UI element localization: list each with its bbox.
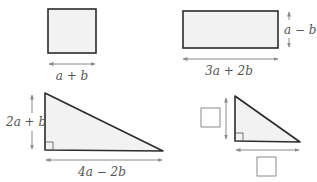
rectangle-shape: 3a + 2b a − b <box>183 11 317 78</box>
base-answer-box[interactable] <box>257 157 276 176</box>
square-shape: a + b <box>48 9 96 83</box>
geometry-diagram: a + b 3a + 2b a − b 2a + b 4a − 2b <box>0 0 317 182</box>
square-side-label: a + b <box>56 69 89 83</box>
triangle-large-shape: 2a + b 4a − 2b <box>5 93 163 179</box>
triangle-small-shape <box>201 96 300 176</box>
rectangle-width-label: 3a + 2b <box>205 64 253 78</box>
rectangle-height-label: a − b <box>284 23 317 37</box>
triangle-large-base-label: 4a − 2b <box>77 165 126 179</box>
triangle-large-height-label: 2a + b <box>5 115 46 129</box>
height-answer-box[interactable] <box>201 108 220 127</box>
